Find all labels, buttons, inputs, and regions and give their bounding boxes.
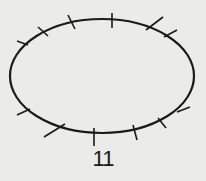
tick-mark-7: [17, 109, 30, 115]
figure-label: 11: [0, 146, 206, 172]
tick-mark-10: [133, 125, 137, 140]
tick-mark-6: [164, 30, 177, 37]
